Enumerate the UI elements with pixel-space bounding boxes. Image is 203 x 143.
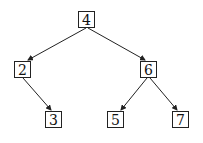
tree-node-5: 5 bbox=[107, 111, 124, 128]
tree-node-3: 3 bbox=[45, 111, 62, 128]
edge-4-6 bbox=[88, 28, 145, 60]
edge-6-7 bbox=[150, 78, 177, 110]
tree-node-4: 4 bbox=[78, 11, 95, 28]
tree-node-6: 6 bbox=[140, 61, 157, 78]
edge-6-5 bbox=[121, 78, 147, 110]
edge-4-2 bbox=[28, 28, 86, 60]
tree-node-7: 7 bbox=[172, 111, 189, 128]
edge-2-3 bbox=[23, 78, 51, 110]
tree-node-2: 2 bbox=[14, 61, 31, 78]
